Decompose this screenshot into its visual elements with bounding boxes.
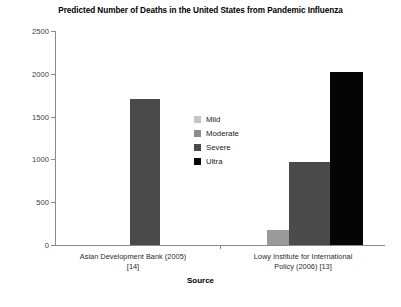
legend-item-moderate: Moderate — [194, 126, 239, 140]
bar-severe-group-0 — [130, 99, 160, 245]
category-label-1: Lowy Institute for InternationalPolicy (… — [228, 252, 378, 272]
y-tick — [51, 159, 55, 160]
category-label-line: [14] — [58, 262, 208, 272]
bar-moderate-group-1 — [267, 230, 289, 245]
legend-label: Moderate — [206, 129, 239, 138]
y-tick-label: 2500 — [3, 27, 49, 36]
bar-ultra-group-1 — [330, 72, 363, 245]
y-tick — [51, 117, 55, 118]
legend-item-severe: Severe — [194, 140, 239, 154]
y-tick-label: 1500 — [3, 112, 49, 121]
legend: MildModerateSevereUltra — [194, 112, 239, 168]
y-tick — [51, 31, 55, 32]
y-tick — [51, 74, 55, 75]
category-label-line: Lowy Institute for International — [228, 252, 378, 262]
y-tick-label: 500 — [3, 198, 49, 207]
legend-swatch-ultra — [194, 158, 201, 165]
category-label-line: Asian Development Bank (2005) — [58, 252, 208, 262]
y-axis-line — [55, 31, 56, 245]
category-label-line: Policy (2006) [13] — [228, 262, 378, 272]
y-tick-label: 2000 — [3, 69, 49, 78]
chart-title: Predicted Number of Deaths in the United… — [0, 6, 401, 15]
category-label-0: Asian Development Bank (2005)[14] — [58, 252, 208, 272]
y-tick — [51, 245, 55, 246]
legend-label: Ultra — [206, 157, 222, 166]
x-axis-title: Source — [0, 276, 401, 285]
bar-severe-group-1 — [289, 162, 330, 245]
legend-swatch-severe — [194, 144, 201, 151]
y-tick-label: 1000 — [3, 155, 49, 164]
legend-item-mild: Mild — [194, 112, 239, 126]
legend-label: Severe — [206, 143, 231, 152]
y-tick — [51, 202, 55, 203]
bar-chart: Predicted Number of Deaths in the United… — [0, 0, 401, 307]
x-tick — [220, 245, 221, 249]
legend-swatch-moderate — [194, 130, 201, 137]
legend-label: Mild — [206, 115, 220, 124]
y-tick-label: 0 — [3, 241, 49, 250]
legend-item-ultra: Ultra — [194, 154, 239, 168]
legend-swatch-mild — [194, 116, 201, 123]
